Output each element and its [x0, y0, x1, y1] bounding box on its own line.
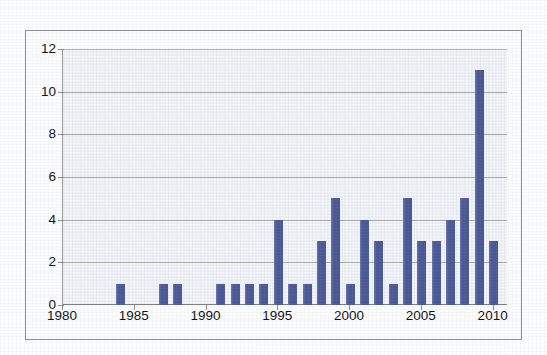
bar-2007	[446, 220, 455, 305]
bar-2005	[417, 241, 426, 305]
y-tick-label-12: 12	[26, 42, 56, 56]
y-tick-label-4: 4	[26, 213, 56, 227]
bar-1988	[173, 284, 182, 305]
y-tick-label-10: 10	[26, 85, 56, 99]
x-tick-mark-1995	[277, 305, 278, 310]
bar-2003	[389, 284, 398, 305]
x-tick-mark-2000	[349, 305, 350, 310]
bar-1997	[303, 284, 312, 305]
bar-1984	[116, 284, 125, 305]
x-tick-mark-1985	[134, 305, 135, 310]
bar-1995	[274, 220, 283, 305]
bar-1993	[245, 284, 254, 305]
x-axis: 1980198519901995200020052010	[0, 308, 547, 332]
bar-1991	[216, 284, 225, 305]
bar-1996	[288, 284, 297, 305]
bar-2000	[346, 284, 355, 305]
x-tick-label-1980: 1980	[47, 308, 77, 323]
y-axis: 024681012	[24, 49, 56, 305]
bar-1987	[159, 284, 168, 305]
x-tick-label-2005: 2005	[406, 308, 436, 323]
x-tick-mark-2010	[493, 305, 494, 310]
bar-1992	[231, 284, 240, 305]
bar-2002	[374, 241, 383, 305]
y-tick-label-2: 2	[26, 255, 56, 269]
y-tick-label-6: 6	[26, 170, 56, 184]
bar-2004	[403, 198, 412, 305]
x-tick-mark-1980	[62, 305, 63, 310]
bar-2010	[489, 241, 498, 305]
x-tick-label-2000: 2000	[334, 308, 364, 323]
x-tick-mark-2005	[421, 305, 422, 310]
x-tick-label-1985: 1985	[119, 308, 149, 323]
x-tick-mark-1990	[206, 305, 207, 310]
bar-1998	[317, 241, 326, 305]
y-tick-label-8: 8	[26, 127, 56, 141]
bar-2009	[475, 70, 484, 305]
bar-2001	[360, 220, 369, 305]
bar-2006	[432, 241, 441, 305]
y-tick-mark-0	[58, 305, 64, 306]
bar-series	[62, 49, 507, 305]
x-tick-label-1995: 1995	[262, 308, 292, 323]
chart-figure: 024681012 1980198519901995200020052010	[0, 0, 547, 355]
bar-2008	[460, 198, 469, 305]
bar-1994	[259, 284, 268, 305]
x-tick-label-2010: 2010	[478, 308, 508, 323]
x-tick-label-1990: 1990	[191, 308, 221, 323]
bar-1999	[331, 198, 340, 305]
